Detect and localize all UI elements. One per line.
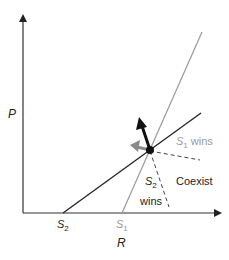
x-tick-s2: S2 (57, 218, 69, 233)
region-s2-wins-bottom: wins (140, 195, 162, 207)
x-axis-label: R (117, 236, 126, 250)
s2-zngi-line (63, 113, 201, 213)
x-tick-s1-sub: 1 (123, 224, 127, 233)
region-s2-wins-top: S2 (145, 175, 157, 190)
x-tick-s2-sub: 2 (64, 224, 68, 233)
boundary-dashed-1 (150, 151, 200, 160)
s1-impact-arrowhead (130, 140, 140, 152)
x-tick-s1: S1 (116, 218, 128, 233)
region-coexist: Coexist (176, 175, 213, 187)
y-axis-label: P (8, 107, 16, 121)
region-s1-suffix: wins (188, 135, 213, 147)
s2-impact-arrowhead (136, 117, 147, 130)
region-s2-sub: 2 (152, 181, 156, 190)
resource-competition-diagram (0, 0, 229, 260)
equilibrium-point (146, 146, 154, 154)
region-s1-wins: S1 wins (176, 135, 213, 150)
